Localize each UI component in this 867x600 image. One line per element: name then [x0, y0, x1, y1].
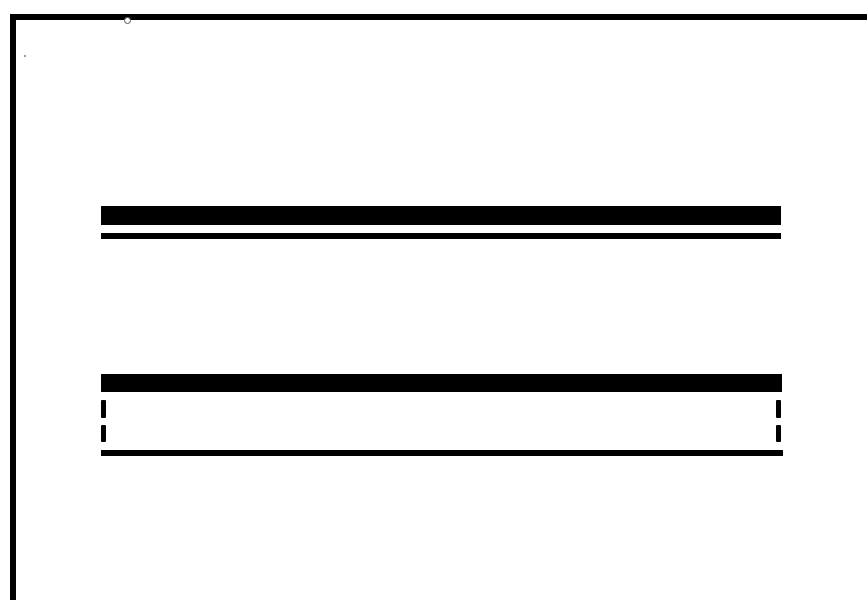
thin-bar: [101, 450, 783, 456]
left-dash-2: [101, 425, 106, 442]
frame-mark-dot: [124, 17, 131, 24]
left-dash-1: [101, 400, 106, 418]
right-dash-1: [776, 400, 781, 418]
thick-bar: [101, 374, 782, 392]
speck: [24, 55, 26, 57]
right-dash-2: [776, 425, 781, 442]
thin-bar: [101, 233, 781, 239]
thick-bar: [101, 206, 781, 225]
frame-top-border: [10, 14, 867, 20]
frame-left-border: [10, 14, 16, 600]
